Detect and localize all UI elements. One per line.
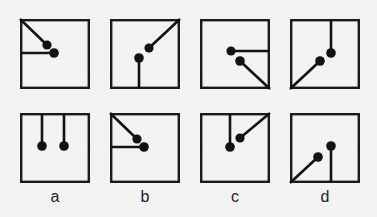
segment-diagonal-from-bottom-left-corner [290, 61, 320, 89]
cell-canvas-bottom-c [200, 113, 270, 183]
endpoint-dot-vertical-left-from-top-edge [37, 141, 47, 151]
cell-canvas-top-a [20, 19, 90, 89]
cell-border [201, 114, 269, 182]
cell-canvas-top-d [290, 19, 360, 89]
endpoint-dot-vertical-from-top-edge [225, 142, 235, 152]
cell-canvas-top-c [200, 19, 270, 89]
figure-cell-bottom-a [20, 113, 90, 183]
column-label-b: b [110, 187, 180, 207]
endpoint-dot-diagonal-from-bottom-right-corner [235, 56, 245, 66]
cell-canvas-bottom-d [290, 113, 360, 183]
segment-diagonal-from-top-left-corner [110, 113, 137, 139]
figure-panel: abcd [0, 0, 377, 217]
figure-cell-top-a [20, 19, 90, 89]
endpoint-dot-horizontal-from-right-edge [226, 46, 235, 55]
cell-grid [20, 19, 360, 183]
figure-cell-bottom-c [200, 113, 270, 183]
figure-cell-bottom-b [110, 113, 180, 183]
endpoint-dot-horizontal-from-left-edge [49, 48, 59, 58]
column-label-c: c [200, 187, 270, 207]
segment-diagonal-from-top-right-corner [149, 19, 180, 48]
segment-diagonal-from-top-right-corner [240, 113, 270, 138]
column-label-row: abcd [20, 187, 360, 211]
endpoint-dot-vertical-right-from-top-edge [59, 141, 69, 151]
cell-canvas-bottom-a [20, 113, 90, 183]
endpoint-dot-diagonal-from-top-right-corner [235, 133, 244, 142]
column-label-d: d [290, 187, 360, 207]
column-label-a: a [20, 187, 90, 207]
endpoint-dot-diagonal-from-top-left-corner [42, 40, 51, 49]
endpoint-dot-vertical-from-top-edge [326, 48, 336, 58]
segment-diagonal-from-bottom-right-corner [240, 61, 270, 89]
endpoint-dot-horizontal-from-left-edge [139, 142, 149, 152]
cell-canvas-bottom-b [110, 113, 180, 183]
endpoint-dot-vertical-from-bottom-edge [134, 53, 144, 63]
endpoint-dot-vertical-from-bottom-edge [326, 141, 336, 151]
endpoint-dot-diagonal-from-bottom-left-corner [315, 56, 325, 66]
segment-diagonal-from-top-left-corner [20, 19, 47, 45]
figure-cell-bottom-d [290, 113, 360, 183]
figure-cell-top-b [110, 19, 180, 89]
segment-diagonal-from-bottom-left-corner [290, 157, 318, 183]
endpoint-dot-diagonal-from-bottom-left-corner [313, 152, 323, 162]
figure-cell-top-c [200, 19, 270, 89]
endpoint-dot-diagonal-from-top-right-corner [144, 43, 153, 52]
cell-border [21, 114, 89, 182]
figure-cell-top-d [290, 19, 360, 89]
endpoint-dot-diagonal-from-top-left-corner [132, 134, 141, 143]
cell-canvas-top-b [110, 19, 180, 89]
